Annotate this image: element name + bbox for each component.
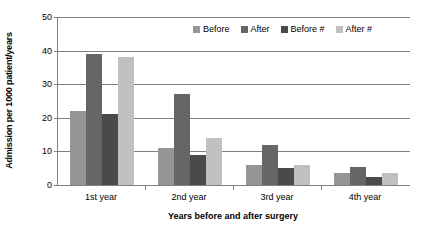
bar (278, 168, 294, 185)
bars-layer (58, 17, 410, 185)
bar-group (58, 17, 146, 185)
x-tick-label: 3rd year (233, 190, 321, 204)
y-tick-label: 0 (47, 181, 52, 190)
legend-item: Before # (281, 24, 325, 34)
x-axis-title: Years before and after surgery (57, 210, 409, 222)
bar (262, 145, 278, 185)
legend-label: After # (346, 24, 373, 34)
legend-item: After # (336, 24, 373, 34)
bar (366, 177, 382, 185)
x-tick-label: 2nd year (145, 190, 233, 204)
bar-group (322, 17, 410, 185)
bar (334, 173, 350, 185)
plot-area: 01020304050 (57, 17, 410, 186)
x-tick-label: 1st year (57, 190, 145, 204)
legend-swatch-icon (281, 26, 288, 33)
legend-label: After (251, 24, 270, 34)
bar (246, 165, 262, 185)
chart-legend: BeforeAfterBefore #After # (193, 24, 372, 34)
legend-swatch-icon (241, 26, 248, 33)
bar (86, 54, 102, 185)
y-tick-label: 50 (42, 13, 52, 22)
legend-label: Before (203, 24, 230, 34)
bar (382, 173, 398, 185)
legend-swatch-icon (336, 26, 343, 33)
bar (102, 114, 118, 185)
bar (158, 148, 174, 185)
legend-swatch-icon (193, 26, 200, 33)
legend-item: After (241, 24, 270, 34)
bar (206, 138, 222, 185)
bar (70, 111, 86, 185)
y-axis-title: Admission per 1000 patient/years (2, 8, 16, 193)
x-tick-label: 4th year (321, 190, 409, 204)
bar-group (234, 17, 322, 185)
legend-label: Before # (291, 24, 325, 34)
x-axis-tick-labels: 1st year2nd year3rd year4th year (57, 190, 409, 204)
bar (350, 167, 366, 185)
bar (174, 94, 190, 185)
bar-chart: Admission per 1000 patient/years 0102030… (0, 0, 421, 239)
bar (118, 57, 134, 185)
y-tick-label: 20 (42, 113, 52, 122)
bar-group (146, 17, 234, 185)
y-tick-label: 40 (42, 46, 52, 55)
y-tick-label: 10 (42, 147, 52, 156)
legend-item: Before (193, 24, 230, 34)
bar (190, 155, 206, 185)
y-tick-label: 30 (42, 80, 52, 89)
bar (294, 165, 310, 185)
